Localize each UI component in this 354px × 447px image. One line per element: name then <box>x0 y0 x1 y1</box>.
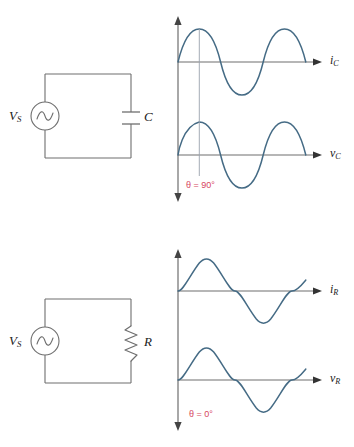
plot-axis-capacitive <box>174 16 181 202</box>
axis-subscript-r: R <box>335 377 340 386</box>
figure-svg <box>0 0 354 447</box>
component-label-capacitor: C <box>144 109 153 125</box>
component-label-resistor: R <box>144 334 152 350</box>
phase-annotation-capacitive: θ = 90° <box>186 180 215 190</box>
circuit-capacitive <box>31 74 140 158</box>
source-label-resistive: VS <box>9 333 21 349</box>
source-symbol: V <box>9 333 17 348</box>
source-symbol: V <box>9 108 17 123</box>
axis-subscript-c: C <box>335 152 340 161</box>
axis-subscript-r: R <box>333 288 338 297</box>
axis-label-ir: iR <box>330 282 338 297</box>
plot-axis-vr <box>178 376 322 383</box>
figure-canvas: VS C iC vC θ = 90° VS R iR vR θ = 0° <box>0 0 354 447</box>
capacitor-icon <box>122 112 140 124</box>
plot-axis-resistive <box>174 249 181 431</box>
axis-label-vr: vR <box>330 371 340 386</box>
ac-source-icon <box>31 327 59 355</box>
plot-axis-ir <box>178 287 322 294</box>
axis-label-vc: vC <box>330 146 341 161</box>
axis-subscript-c: C <box>333 59 338 68</box>
resistor-icon <box>125 326 137 361</box>
source-subscript: S <box>17 114 21 124</box>
ac-source-icon <box>31 102 59 130</box>
axis-label-ic: iC <box>330 53 339 68</box>
source-subscript: S <box>17 339 21 349</box>
phase-annotation-resistive: θ = 0° <box>189 409 213 419</box>
circuit-resistive <box>31 299 137 383</box>
source-label-capacitive: VS <box>9 108 21 124</box>
